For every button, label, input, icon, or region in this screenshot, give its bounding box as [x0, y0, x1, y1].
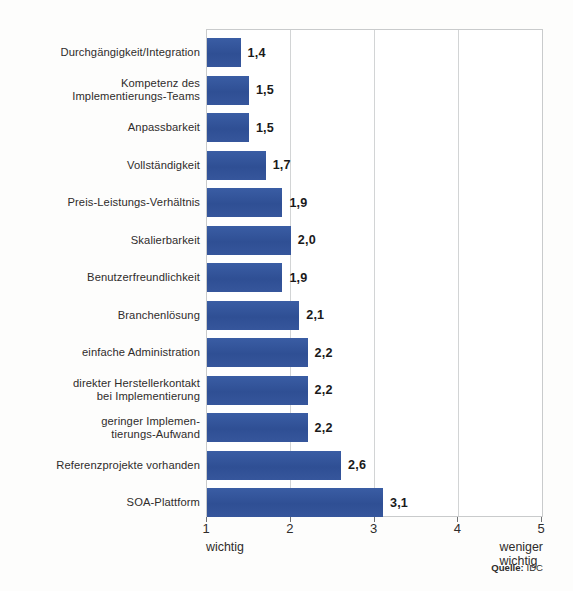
category-label: Kompetenz des Implementierungs-Teams — [8, 77, 200, 102]
bar-row: Kompetenz des Implementierungs-Teams1,5 — [0, 76, 573, 105]
bar-value-label: 2,2 — [315, 383, 333, 397]
bar-value-label: 1,5 — [256, 121, 274, 135]
category-label: Branchenlösung — [8, 309, 200, 322]
bar-rows: Durchgängigkeit/Integration1,4Kompetenz … — [0, 29, 573, 517]
bar-row: SOA-Plattform3,1 — [0, 488, 573, 517]
bar — [207, 376, 308, 405]
bar-value-label: 1,7 — [273, 158, 291, 172]
bar — [207, 188, 282, 217]
bar-row: Referenzprojekte vorhanden2,6 — [0, 451, 573, 480]
category-label: einfache Administration — [8, 346, 200, 359]
category-label: Anpassbarkeit — [8, 121, 200, 134]
bar-row: Anpassbarkeit1,5 — [0, 113, 573, 142]
category-label: geringer Implemen- tierungs-Aufwand — [8, 415, 200, 440]
bar — [207, 38, 241, 67]
bar-value-label: 2,0 — [298, 233, 316, 247]
bar-value-label: 2,6 — [348, 458, 366, 472]
bar-row: Benutzerfreundlichkeit1,9 — [0, 263, 573, 292]
bar — [207, 413, 308, 442]
bar — [207, 488, 383, 517]
category-label: Skalierbarkeit — [8, 234, 200, 247]
bar-row: geringer Implemen- tierungs-Aufwand2,2 — [0, 413, 573, 442]
bar-row: Skalierbarkeit2,0 — [0, 226, 573, 255]
category-label: SOA-Plattform — [8, 496, 200, 509]
bar-value-label: 2,1 — [306, 308, 324, 322]
bar — [207, 263, 282, 292]
bar — [207, 226, 291, 255]
bar-row: Durchgängigkeit/Integration1,4 — [0, 38, 573, 67]
x-tick-label: 2 — [286, 521, 293, 536]
source-value: IDC — [526, 562, 543, 573]
category-label: Durchgängigkeit/Integration — [8, 46, 200, 59]
bar-value-label: 1,4 — [248, 46, 266, 60]
category-label: Vollständigkeit — [8, 159, 200, 172]
bar-row: direkter Herstellerkontakt bei Implement… — [0, 376, 573, 405]
bar — [207, 76, 249, 105]
bar-value-label: 3,1 — [390, 496, 408, 510]
x-tick-label: 5 — [538, 521, 545, 536]
bar-value-label: 1,5 — [256, 83, 274, 97]
bar — [207, 301, 299, 330]
bar-row: einfache Administration2,2 — [0, 338, 573, 367]
source-note: Quelle: IDC — [491, 562, 543, 573]
bar-row: Vollständigkeit1,7 — [0, 151, 573, 180]
bar-chart-figure: Durchgängigkeit/Integration1,4Kompetenz … — [0, 0, 573, 591]
category-label: direkter Herstellerkontakt bei Implement… — [8, 377, 200, 402]
bar — [207, 151, 266, 180]
x-tick-label: 4 — [454, 521, 461, 536]
axis-end-label-left: wichtig — [206, 540, 244, 554]
x-tick-label: 1 — [202, 521, 209, 536]
source-prefix: Quelle: — [491, 562, 524, 573]
bar-row: Branchenlösung2,1 — [0, 301, 573, 330]
bar-row: Preis-Leistungs-Verhältnis1,9 — [0, 188, 573, 217]
category-label: Preis-Leistungs-Verhältnis — [8, 196, 200, 209]
category-label: Benutzerfreundlichkeit — [8, 271, 200, 284]
bar — [207, 451, 341, 480]
bar-value-label: 2,2 — [315, 346, 333, 360]
bar-value-label: 2,2 — [315, 421, 333, 435]
bar-value-label: 1,9 — [289, 271, 307, 285]
category-label: Referenzprojekte vorhanden — [8, 459, 200, 472]
bar — [207, 113, 249, 142]
x-tick-label: 3 — [370, 521, 377, 536]
bar-value-label: 1,9 — [289, 196, 307, 210]
bar — [207, 338, 308, 367]
